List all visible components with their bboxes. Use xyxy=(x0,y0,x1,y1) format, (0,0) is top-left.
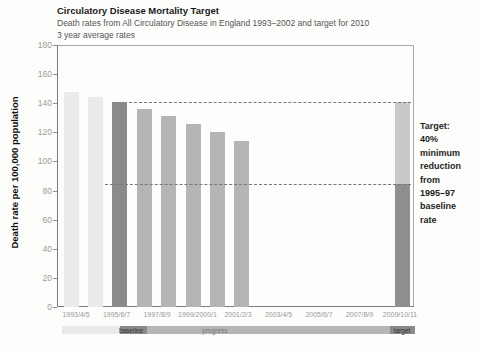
dashed-reference-line xyxy=(105,184,411,185)
annotation-line: reduction xyxy=(420,160,478,173)
y-tick-mark xyxy=(53,249,57,250)
bar-progress xyxy=(186,124,201,307)
strip-label-baseline: baseline xyxy=(106,327,156,334)
y-tick-label: 120 xyxy=(26,127,52,137)
y-axis-line xyxy=(57,45,58,307)
y-tick-label: 40 xyxy=(26,244,52,254)
chart-subtitle: Death rates from All Circulatory Disease… xyxy=(57,18,369,28)
y-tick-label: 180 xyxy=(26,40,52,50)
y-tick-label: 80 xyxy=(26,186,52,196)
chart-title: Circulatory Disease Mortality Target xyxy=(57,5,219,16)
y-tick-label: 20 xyxy=(26,273,52,283)
dashed-reference-line xyxy=(129,102,411,103)
y-tick-label: 160 xyxy=(26,69,52,79)
strip-label-progress: progress xyxy=(190,327,240,334)
bar-progress xyxy=(161,116,176,307)
bar-pre xyxy=(64,92,79,307)
y-tick-mark xyxy=(53,103,57,104)
annotation-line: 1995–97 xyxy=(420,187,478,200)
annotation-line: Target: xyxy=(420,120,478,133)
annotation-line: baseline xyxy=(420,200,478,213)
y-axis-title: Death rate per 100,000 population xyxy=(9,63,20,283)
target-bar-upper xyxy=(395,102,410,184)
y-tick-label: 100 xyxy=(26,156,52,166)
bar-baseline xyxy=(112,102,127,307)
y-tick-mark xyxy=(53,278,57,279)
bar-pre xyxy=(88,97,103,307)
y-tick-mark xyxy=(53,220,57,221)
y-tick-mark xyxy=(53,132,57,133)
strip-segment-progress xyxy=(147,326,390,334)
bar-progress xyxy=(137,109,152,307)
annotation-line: 40% xyxy=(420,133,478,146)
target-annotation: Target: 40% minimum reduction from 1995–… xyxy=(420,120,478,227)
y-tick-mark xyxy=(53,161,57,162)
annotation-line: from xyxy=(420,174,478,187)
y-tick-label: 140 xyxy=(26,98,52,108)
y-tick-label: 0 xyxy=(26,302,52,312)
y-tick-mark xyxy=(53,307,57,308)
bar-progress xyxy=(210,132,225,307)
y-tick-mark xyxy=(53,74,57,75)
chart-subtitle-note: 3 year average rates xyxy=(57,30,135,40)
y-tick-label: 60 xyxy=(26,215,52,225)
target-bar-lower xyxy=(395,184,410,307)
y-tick-mark xyxy=(53,45,57,46)
y-tick-mark xyxy=(53,191,57,192)
x-tick-label: 2009/10/11 xyxy=(376,311,424,318)
mortality-target-chart: Circulatory Disease Mortality Target Dea… xyxy=(0,0,480,352)
annotation-line: rate xyxy=(420,214,478,227)
bar-progress xyxy=(234,141,249,307)
strip-label-target: target xyxy=(377,327,427,334)
annotation-line: minimum xyxy=(420,147,478,160)
